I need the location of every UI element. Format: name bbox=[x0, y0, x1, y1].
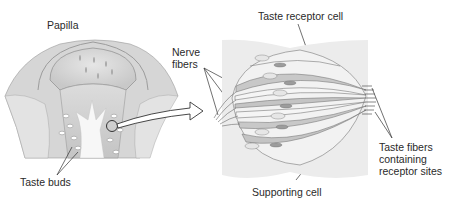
label-taste-buds: Taste buds bbox=[20, 176, 71, 188]
label-papilla: Papilla bbox=[47, 19, 79, 31]
taste-bud-illustration bbox=[214, 40, 376, 178]
label-taste-fibers: Taste fibers containing receptor sites bbox=[379, 141, 442, 177]
papilla-illustration bbox=[5, 40, 178, 158]
label-taste-receptor-cell: Taste receptor cell bbox=[258, 10, 343, 22]
label-nerve-fibers: Nerve fibers bbox=[172, 46, 200, 70]
label-supporting-cell: Supporting cell bbox=[252, 186, 321, 198]
